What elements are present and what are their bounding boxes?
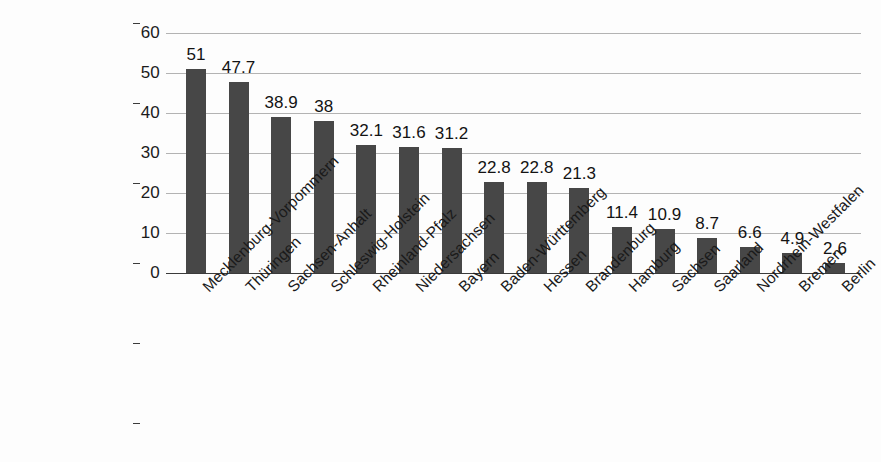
y-axis-tick-label: 30 bbox=[141, 143, 160, 163]
y-axis: 0102030405060 bbox=[118, 33, 160, 273]
y-axis-tick-mark bbox=[133, 23, 140, 24]
y-axis-tick-label: 0 bbox=[150, 263, 160, 283]
y-axis-tick-mark bbox=[133, 263, 140, 264]
gridline bbox=[166, 73, 861, 74]
y-axis-tick-label: 20 bbox=[141, 183, 160, 203]
y-axis-tick-label: 60 bbox=[141, 23, 160, 43]
bar-value-label: 47.7 bbox=[209, 58, 269, 78]
bar[interactable] bbox=[186, 69, 206, 273]
y-axis-tick-mark bbox=[133, 423, 140, 424]
bar-value-label: 21.3 bbox=[549, 164, 609, 184]
y-axis-tick-label: 40 bbox=[141, 103, 160, 123]
bar-value-label: 38 bbox=[294, 97, 354, 117]
y-axis-tick-label: 50 bbox=[141, 63, 160, 83]
y-axis-tick-mark bbox=[133, 103, 140, 104]
y-axis-tick-mark bbox=[133, 343, 140, 344]
y-axis-tick-mark bbox=[133, 183, 140, 184]
bar-value-label: 31.2 bbox=[422, 124, 482, 144]
y-axis-tick-label: 10 bbox=[141, 223, 160, 243]
gridline bbox=[166, 33, 861, 34]
bar-chart: 0102030405060 5147.738.93832.131.631.222… bbox=[0, 0, 881, 462]
